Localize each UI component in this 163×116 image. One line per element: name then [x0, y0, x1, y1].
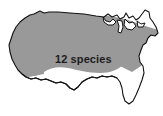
usa-range-map-svg: 12 species [0, 0, 163, 116]
range-count-label: 12 species [55, 53, 112, 65]
range-blob-west-extension [9, 14, 44, 78]
species-range-map-figure: 12 species [0, 0, 163, 116]
